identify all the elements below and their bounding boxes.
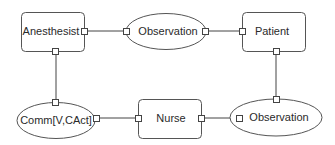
comm-label: Comm[V,CAct] <box>20 114 92 126</box>
port-observation-top-left[interactable] <box>124 29 130 35</box>
node-observation-bottom[interactable]: Observation <box>230 99 322 136</box>
observation-top-label: Observation <box>138 25 197 37</box>
node-anesthesist[interactable]: Anesthesist <box>22 13 85 52</box>
port-patient-left[interactable] <box>240 29 246 35</box>
node-nurse[interactable]: Nurse <box>139 100 202 139</box>
anesthesist-label: Anesthesist <box>23 25 80 37</box>
port-observation-top-right[interactable] <box>203 29 209 35</box>
port-nurse-left[interactable] <box>136 116 142 122</box>
port-comm-right[interactable] <box>94 116 100 122</box>
observation-bottom-label: Observation <box>249 111 308 123</box>
patient-label: Patient <box>255 25 289 37</box>
port-observation-bottom-top[interactable] <box>274 97 280 103</box>
node-patient[interactable]: Patient <box>243 13 306 52</box>
port-observation-bottom-left[interactable] <box>237 116 243 122</box>
diagram-canvas: Anesthesist Observation Patient Comm[V,C… <box>0 0 335 145</box>
port-patient-bottom[interactable] <box>274 49 280 55</box>
nurse-label: Nurse <box>156 112 185 124</box>
node-observation-top[interactable]: Observation <box>126 14 206 50</box>
port-anesthesist-right[interactable] <box>82 29 88 35</box>
port-anesthesist-bottom[interactable] <box>53 49 59 55</box>
port-nurse-right[interactable] <box>199 116 205 122</box>
node-comm[interactable]: Comm[V,CAct] <box>17 103 95 139</box>
port-comm-top[interactable] <box>53 100 59 106</box>
